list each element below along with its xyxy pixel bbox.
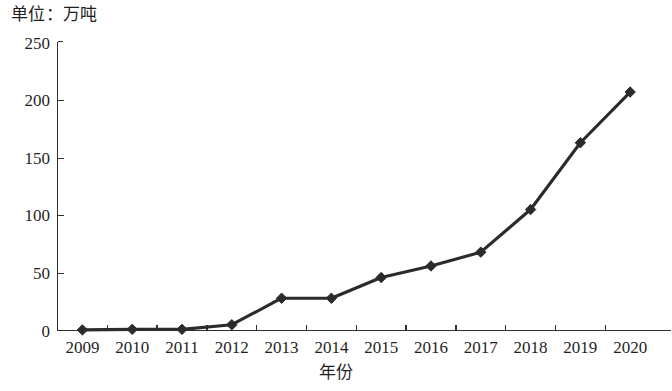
line-chart-plot: 050100150200250 200920102011201220132014… [0,0,672,391]
x-axis-tick-label: 2012 [215,338,249,357]
y-axis-tick-label: 100 [25,206,51,225]
series-line-path [82,92,630,330]
chart-container: 单位：万吨 050100150200250 200920102011201220… [0,0,672,391]
data-point-marker [426,261,436,271]
x-axis-tick-label: 2009 [65,338,99,357]
x-axis-title: 年份 [0,362,672,384]
data-point-marker [77,325,87,335]
axis-lines [58,42,672,331]
x-axis-tick-label: 2019 [563,338,597,357]
data-point-marker [127,324,137,334]
x-axis-tick-label: 2016 [414,338,448,357]
x-axis-tick-label: 2017 [464,338,499,357]
x-axis-tick-label: 2013 [265,338,299,357]
y-axis-tick-labels: 050100150200250 [25,34,51,341]
data-point-marker [326,293,336,303]
x-axis-tick-label: 2020 [613,338,647,357]
x-axis-tick-label: 2015 [364,338,398,357]
y-axis-tick-label: 200 [25,91,51,110]
data-point-marker [376,272,386,282]
y-axis-tick-label: 0 [42,322,51,341]
x-axis-tick-label: 2018 [514,338,548,357]
x-axis-tick-labels: 2009201020112012201320142015201620172018… [65,338,647,357]
y-axis-tick-label: 50 [33,264,50,283]
y-axis-tick-label: 150 [25,149,51,168]
y-axis-tick-marks [58,101,64,274]
x-axis-tick-label: 2011 [165,338,198,357]
y-axis-tick-label: 250 [25,34,51,53]
data-point-marker [177,324,187,334]
x-axis-tick-label: 2014 [314,338,349,357]
series-data-markers [77,87,635,335]
x-axis-tick-label: 2010 [115,338,149,357]
